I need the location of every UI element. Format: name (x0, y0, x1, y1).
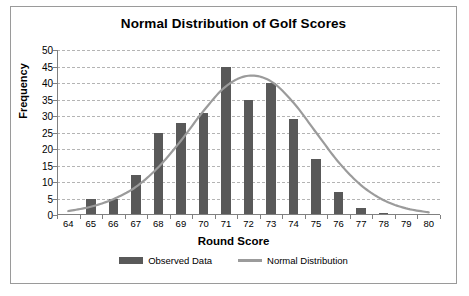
x-tick-label: 77 (356, 218, 367, 229)
chart-title: Normal Distribution of Golf Scores (11, 16, 456, 31)
x-tick-label: 71 (221, 218, 232, 229)
x-tick-label: 67 (131, 218, 142, 229)
x-tick-label: 75 (311, 218, 322, 229)
x-tick-label: 65 (85, 218, 96, 229)
bar (221, 67, 230, 216)
x-tick-label: 70 (198, 218, 209, 229)
x-tick-label: 68 (153, 218, 164, 229)
x-axis-title: Round Score (11, 235, 456, 247)
y-tick-label: 40 (42, 78, 53, 89)
y-tick-mark (53, 83, 57, 84)
x-tick-label: 74 (288, 218, 299, 229)
y-tick-label: 10 (42, 177, 53, 188)
gridline (57, 67, 440, 68)
x-axis-line (57, 214, 440, 215)
legend-item-normal-distribution: Normal Distribution (238, 255, 348, 266)
x-tick-label: 73 (266, 218, 277, 229)
y-tick-mark (53, 116, 57, 117)
bar (109, 199, 118, 216)
y-axis-line (57, 50, 58, 215)
bar (334, 192, 343, 215)
plot-inner (57, 50, 440, 215)
y-axis-tick-labels: 05101520253035404550 (29, 50, 53, 215)
gridline (57, 50, 440, 51)
bar (154, 133, 163, 216)
x-tick-label: 79 (401, 218, 412, 229)
y-tick-mark (53, 149, 57, 150)
x-tick-label: 66 (108, 218, 119, 229)
bar (86, 199, 95, 216)
gridline (57, 83, 440, 84)
plot-area (57, 50, 440, 215)
chart-legend: Observed Data Normal Distribution (11, 255, 456, 266)
y-axis-title: Frequency (17, 63, 29, 119)
bar (131, 175, 140, 215)
y-tick-label: 45 (42, 61, 53, 72)
bar (176, 123, 185, 215)
y-tick-label: 50 (42, 45, 53, 56)
x-tick-label: 64 (63, 218, 74, 229)
legend-swatch-line-icon (238, 259, 262, 262)
x-tick-label: 72 (243, 218, 254, 229)
legend-label-observed-data: Observed Data (148, 255, 212, 266)
y-tick-label: 25 (42, 127, 53, 138)
x-tick-label: 76 (333, 218, 344, 229)
y-tick-label: 35 (42, 94, 53, 105)
y-tick-label: 30 (42, 111, 53, 122)
y-tick-mark (53, 182, 57, 183)
x-axis-tick-labels: 6465666768697071727374757677787980 (57, 218, 440, 232)
y-tick-label: 20 (42, 144, 53, 155)
legend-label-normal-distribution: Normal Distribution (267, 255, 348, 266)
y-tick-mark (53, 67, 57, 68)
y-tick-mark (53, 100, 57, 101)
chart-frame: Normal Distribution of Golf Scores Frequ… (10, 6, 457, 284)
bar (244, 100, 253, 216)
x-tick-mark (440, 215, 441, 219)
x-tick-label: 80 (423, 218, 434, 229)
legend-swatch-bar-icon (119, 257, 143, 264)
y-tick-mark (53, 133, 57, 134)
legend-item-observed-data: Observed Data (119, 255, 212, 266)
bar (289, 119, 298, 215)
y-tick-mark (53, 166, 57, 167)
y-tick-mark (53, 50, 57, 51)
bar (266, 83, 275, 215)
bar (311, 159, 320, 215)
y-tick-mark (53, 199, 57, 200)
x-tick-label: 69 (176, 218, 187, 229)
bar (199, 113, 208, 215)
y-tick-label: 15 (42, 160, 53, 171)
x-tick-label: 78 (378, 218, 389, 229)
